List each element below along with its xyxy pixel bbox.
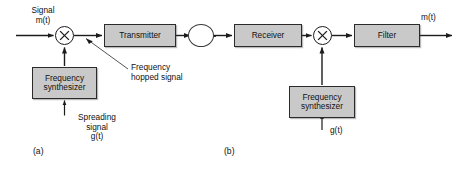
transmitter-block-label: Transmitter bbox=[119, 31, 161, 40]
rx-synth-label-line2: synthesizer bbox=[301, 102, 343, 111]
frequency-hopped-signal-label: Frequency hopped signal bbox=[131, 63, 183, 82]
transmitter-frequency-synthesizer-block: Frequency synthesizer bbox=[32, 67, 97, 99]
input-signal-label: Signal m(t) bbox=[21, 6, 65, 25]
receiver-block-label: Receiver bbox=[252, 31, 285, 40]
output-signal-label: m(t) bbox=[421, 13, 436, 23]
filter-block: Filter bbox=[354, 24, 420, 47]
panel-a-label: (a) bbox=[33, 146, 44, 156]
panel-b-label: (b) bbox=[224, 146, 235, 156]
multiply-glyph bbox=[313, 26, 332, 45]
spreading-signal-label: Spreading signal g(t) bbox=[52, 113, 126, 142]
receiver-mixer-multiplier-icon bbox=[313, 26, 332, 45]
multiply-glyph bbox=[55, 26, 74, 45]
channel-circle-icon bbox=[188, 24, 214, 47]
figure-canvas: Signal m(t) Transmitter Frequency synthe… bbox=[0, 0, 464, 173]
receiver-frequency-synthesizer-block: Frequency synthesizer bbox=[289, 86, 355, 118]
receiver-block: Receiver bbox=[234, 24, 302, 47]
transmitter-mixer-multiplier-icon bbox=[55, 26, 74, 45]
filter-block-label: Filter bbox=[378, 31, 396, 40]
despreading-signal-label: g(t) bbox=[330, 126, 342, 136]
input-signal-line2: m(t) bbox=[21, 16, 65, 26]
hopped-label-line2: hopped signal bbox=[131, 73, 183, 83]
tx-synth-label-line2: synthesizer bbox=[44, 83, 86, 92]
spreading-label-line3: g(t) bbox=[68, 132, 126, 142]
transmitter-block: Transmitter bbox=[104, 24, 176, 47]
